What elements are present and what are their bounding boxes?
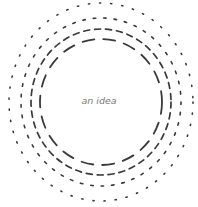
center-label: an idea (0, 95, 198, 106)
